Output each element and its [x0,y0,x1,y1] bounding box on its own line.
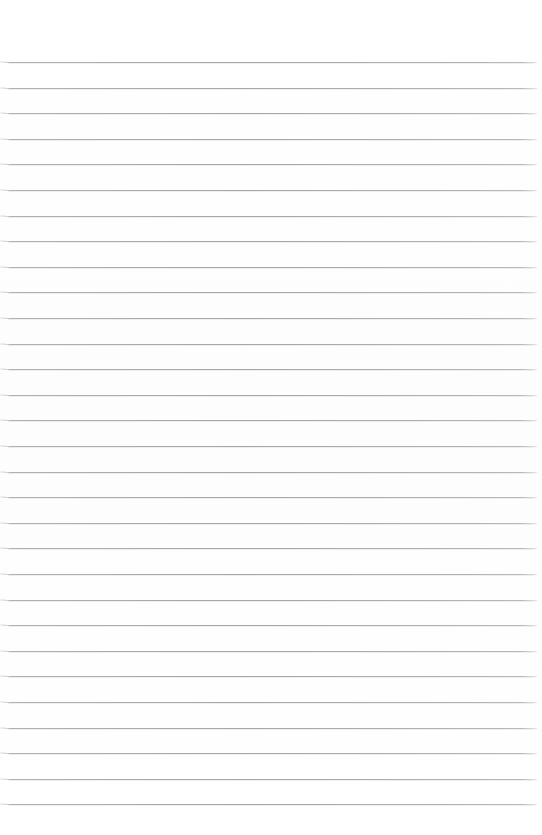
ruled-line [2,625,537,626]
ruled-line [2,574,537,575]
ruled-line-left-tip [0,727,6,729]
ruled-line [2,216,537,217]
ruled-line-left-tip [0,215,6,217]
ruled-line-left-tip [0,368,6,370]
ruled-line-left-tip [0,189,6,191]
ruled-line-left-tip [0,778,6,780]
ruled-line-left-tip [0,496,6,498]
ruled-line-left-tip [0,573,6,575]
ruled-line-left-tip [0,445,6,447]
ruled-line [2,292,537,293]
ruled-line-left-tip [0,547,6,549]
ruled-line [2,139,537,140]
ruled-line [2,241,537,242]
ruled-line [2,779,537,780]
ruled-line [2,600,537,601]
ruled-lines-group [0,0,542,835]
ruled-line-left-tip [0,291,6,293]
ruled-line [2,753,537,754]
bottom-blank-margin [0,812,542,835]
ruled-line [2,804,537,805]
ruled-line [2,62,537,63]
ruled-line-left-tip [0,138,6,140]
ruled-line [2,420,537,421]
ruled-line [2,676,537,677]
ruled-line [2,446,537,447]
ruled-line-left-tip [0,419,6,421]
ruled-line-left-tip [0,87,6,89]
ruled-line-left-tip [0,471,6,473]
ruled-line [2,88,537,89]
ruled-line-left-tip [0,343,6,345]
ruled-line [2,113,537,114]
ruled-line [2,395,537,396]
ruled-line-left-tip [0,112,6,114]
ruled-line [2,702,537,703]
ruled-line [2,369,537,370]
ruled-line-left-tip [0,163,6,165]
ruled-line-left-tip [0,240,6,242]
ruled-line [2,497,537,498]
ruled-line-left-tip [0,650,6,652]
ruled-line [2,548,537,549]
ruled-line-left-tip [0,675,6,677]
ruled-line-left-tip [0,317,6,319]
ruled-line [2,267,537,268]
ruled-line-left-tip [0,522,6,524]
ruled-line [2,651,537,652]
ruled-line-left-tip [0,394,6,396]
ruled-line [2,318,537,319]
ruled-line-left-tip [0,803,6,805]
ruled-line [2,472,537,473]
ruled-line [2,190,537,191]
ruled-line [2,523,537,524]
ruled-line [2,164,537,165]
ruled-line-left-tip [0,701,6,703]
ruled-line-left-tip [0,266,6,268]
page-canvas [0,0,542,835]
ruled-line [2,344,537,345]
ruled-line-left-tip [0,752,6,754]
ruled-line-left-tip [0,599,6,601]
ruled-line-left-tip [0,624,6,626]
ruled-line-left-tip [0,61,6,63]
ruled-line [2,728,537,729]
